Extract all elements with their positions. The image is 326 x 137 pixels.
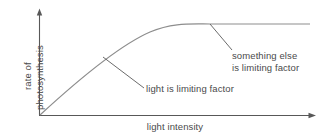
- annotation-other-line1: something else: [232, 50, 299, 62]
- leader-line-other-limiting: [210, 24, 232, 50]
- photosynthesis-light-response-figure: light is limiting factor something else …: [0, 0, 326, 137]
- annotation-other-limiting-factor: something else is limiting factor: [232, 50, 299, 74]
- leader-line-light-limiting: [103, 57, 144, 88]
- x-axis-label-container: light intensity: [0, 121, 326, 132]
- x-axis-label: light intensity: [147, 121, 203, 132]
- y-axis-label-line2: photosynthesis: [34, 45, 45, 110]
- annotation-other-line2: is limiting factor: [232, 62, 299, 74]
- y-axis-label-container: rate of photosynthesis: [0, 0, 40, 120]
- annotation-light-limiting-factor: light is limiting factor: [146, 83, 234, 95]
- y-axis-label-line1: rate of: [22, 62, 33, 90]
- x-axis-arrowhead-icon: [309, 113, 317, 118]
